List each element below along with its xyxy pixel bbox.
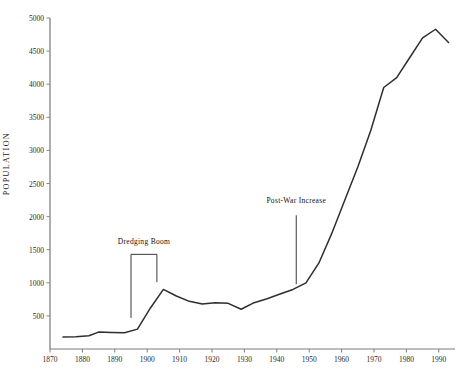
x-tick-label: 1940 [269, 355, 284, 364]
x-tick-label: 1920 [205, 355, 220, 364]
x-tick-label: 1970 [367, 355, 382, 364]
y-tick-label: 4000 [14, 80, 44, 89]
y-tick-label: 2500 [14, 179, 44, 188]
x-tick-label: 1980 [399, 355, 414, 364]
y-tick-label: 3000 [14, 146, 44, 155]
annotation-label: Dredging Boom [118, 237, 170, 246]
x-tick-label: 1900 [140, 355, 155, 364]
y-tick-label: 1000 [14, 278, 44, 287]
y-tick-label: 3500 [14, 113, 44, 122]
x-tick-label: 1910 [172, 355, 187, 364]
x-tick-label: 1930 [237, 355, 252, 364]
population-series-line [63, 29, 449, 337]
x-tick-label: 1960 [334, 355, 349, 364]
x-tick-label: 1990 [431, 355, 446, 364]
population-line-chart: POPULATION 50010001500200025003000350040… [0, 0, 462, 379]
y-tick-label: 4500 [14, 47, 44, 56]
x-tick-label: 1890 [107, 355, 122, 364]
y-tick-label: 5000 [14, 14, 44, 23]
y-tick-label: 1500 [14, 245, 44, 254]
plot-area [0, 0, 462, 379]
annotation-label: Post-War Increase [266, 196, 326, 205]
x-tick-label: 1950 [302, 355, 317, 364]
x-tick-label: 1880 [75, 355, 90, 364]
x-tick-label: 1870 [43, 355, 58, 364]
y-tick-label: 2000 [14, 212, 44, 221]
y-tick-label: 500 [14, 311, 44, 320]
axes-lines [50, 18, 455, 349]
